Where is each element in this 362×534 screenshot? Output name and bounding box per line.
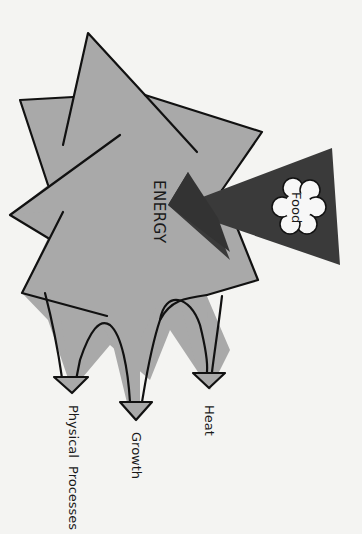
growth-output-label: Growth	[130, 432, 143, 479]
energy-flow-diagram	[0, 0, 362, 534]
food-label: Food	[290, 192, 303, 223]
energy-label: ENERGY	[151, 180, 166, 244]
physical-processes-output-label: Physical Processes	[67, 405, 80, 530]
heat-output-label: Heat	[203, 405, 216, 436]
